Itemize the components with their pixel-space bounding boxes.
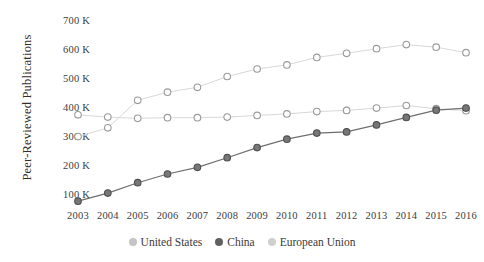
x-tick-label: 2016 xyxy=(449,210,483,221)
legend-swatch-icon xyxy=(268,238,276,246)
legend-swatch-icon xyxy=(129,238,137,246)
chart-legend: United StatesChinaEuropean Union xyxy=(0,236,484,248)
legend-item[interactable]: United States xyxy=(129,236,203,248)
publications-line-chart: Peer-Reviewed Publications 100 K200 K300… xyxy=(0,0,484,262)
legend-label: United States xyxy=(141,236,203,248)
legend-label: China xyxy=(227,236,254,248)
x-axis-ticks: 2003200420052006200720082009201020112012… xyxy=(0,0,484,262)
legend-item[interactable]: European Union xyxy=(268,236,356,248)
legend-item[interactable]: China xyxy=(215,236,254,248)
legend-label: European Union xyxy=(280,236,356,248)
legend-swatch-icon xyxy=(215,238,223,246)
